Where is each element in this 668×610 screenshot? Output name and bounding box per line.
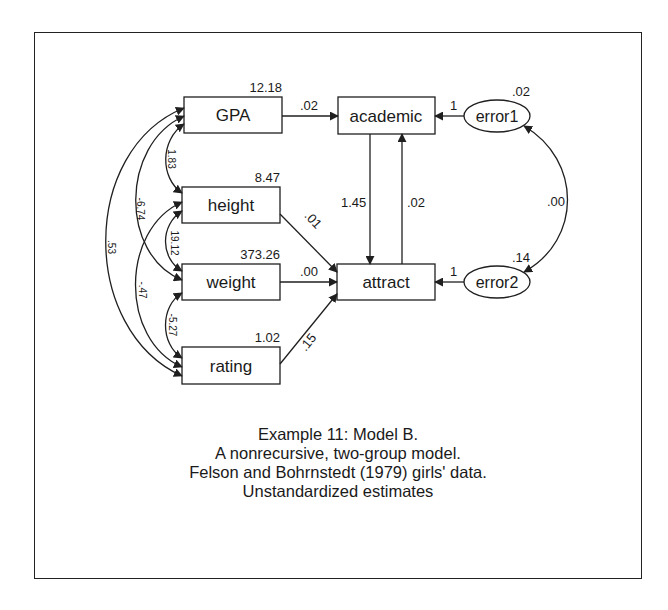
label-academic: academic	[350, 107, 423, 126]
est-cov-height-weight: 19.12	[169, 230, 180, 255]
caption-line-2: A nonrecursive, two-group model.	[34, 444, 642, 463]
figure-caption: Example 11: Model B. A nonrecursive, two…	[34, 425, 642, 501]
est-academic-attract: 1.45	[341, 195, 366, 210]
variance-error1: .02	[512, 84, 530, 99]
caption-line-3: Felson and Bohrnstedt (1979) girls' data…	[34, 463, 642, 482]
est-weight-attract: .00	[300, 264, 318, 279]
est-cov-error1-error2: .00	[547, 194, 565, 209]
est-gpa-academic: .02	[300, 98, 318, 113]
est-rating-attract: .15	[296, 330, 319, 353]
est-cov-gpa-rating: .53	[106, 240, 117, 254]
est-cov-gpa-weight: -6.74	[135, 198, 146, 221]
label-height: height	[208, 196, 255, 215]
caption-line-4: Unstandardized estimates	[34, 482, 642, 501]
label-attract: attract	[362, 273, 410, 292]
caption-line-1: Example 11: Model B.	[34, 425, 642, 444]
path-rating-attract	[280, 294, 337, 364]
est-cov-height-rating: -.47	[137, 281, 148, 299]
variance-gpa: 12.18	[249, 80, 282, 95]
label-weight: weight	[205, 273, 255, 292]
variance-rating: 1.02	[255, 330, 280, 345]
label-rating: rating	[210, 357, 253, 376]
label-error2: error2	[476, 274, 519, 291]
est-cov-weight-rating: -5.27	[167, 314, 178, 337]
est-error2-attract: 1	[450, 264, 457, 279]
est-height-attract: .01	[302, 208, 325, 231]
variance-weight: 373.26	[240, 247, 280, 262]
est-error1-academic: 1	[450, 98, 457, 113]
est-attract-academic: .02	[407, 195, 425, 210]
label-gpa: GPA	[216, 106, 251, 125]
path-diagram: GPA height weight rating academic attrac…	[0, 0, 668, 610]
est-cov-gpa-height: 1.83	[166, 149, 177, 169]
variance-height: 8.47	[255, 170, 280, 185]
variance-error2: .14	[512, 250, 530, 265]
label-error1: error1	[476, 108, 519, 125]
